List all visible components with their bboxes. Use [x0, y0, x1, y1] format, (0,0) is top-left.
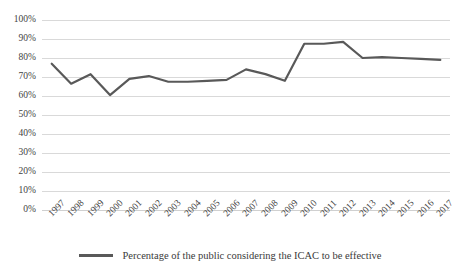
y-tick-label: 60%	[19, 91, 36, 101]
y-tick-label: 70%	[19, 72, 36, 82]
series-line-percentage-effective	[52, 42, 441, 95]
y-tick-label: 80%	[19, 53, 36, 63]
y-tick-label: 40%	[19, 129, 36, 139]
legend-label: Percentage of the public considering the…	[122, 250, 381, 262]
y-tick-label: 50%	[19, 110, 36, 120]
plot-area	[42, 20, 450, 210]
line-chart: 100%90%80%70%60%50%40%30%20%10%0% 199719…	[0, 0, 461, 274]
series-layer	[42, 20, 450, 210]
y-tick-label: 90%	[19, 34, 36, 44]
y-axis: 100%90%80%70%60%50%40%30%20%10%0%	[0, 20, 40, 210]
x-axis: 1997199819992000200120022003200420052006…	[42, 212, 450, 248]
y-tick-label: 20%	[19, 167, 36, 177]
y-tick-label: 30%	[19, 148, 36, 158]
y-tick-label: 100%	[14, 15, 36, 25]
y-tick-label: 0%	[23, 205, 36, 215]
legend-swatch-icon	[79, 254, 113, 257]
legend: Percentage of the public considering the…	[0, 250, 461, 262]
y-tick-label: 10%	[19, 186, 36, 196]
